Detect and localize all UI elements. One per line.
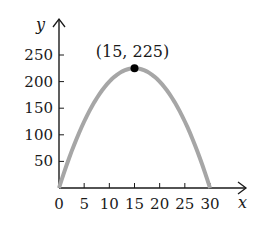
y-tick-label: 250 (24, 46, 53, 64)
vertex-point (131, 64, 139, 72)
x-tick-label: 20 (150, 195, 169, 213)
annotation-layer: (15, 225) (96, 42, 170, 72)
chart: 05101520253050100150200250 (15, 225) y x (0, 0, 259, 228)
x-axis-label: x (238, 193, 247, 212)
x-tick-label: 30 (200, 195, 219, 213)
x-tick-label: 15 (125, 195, 144, 213)
x-tick-label: 25 (175, 195, 194, 213)
y-tick-label: 50 (34, 152, 53, 170)
y-tick-label: 100 (24, 126, 53, 144)
y-tick-label: 200 (24, 73, 53, 91)
x-tick-label: 10 (100, 195, 119, 213)
y-tick-label: 150 (24, 99, 53, 117)
y-axis-label: y (35, 15, 46, 34)
vertex-label: (15, 225) (96, 42, 170, 61)
parabola-curve (59, 68, 210, 188)
x-tick-label: 5 (79, 195, 89, 213)
curve-layer (59, 68, 210, 188)
x-tick-label: 0 (54, 195, 64, 213)
